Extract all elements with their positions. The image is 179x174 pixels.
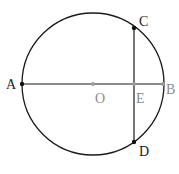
point-A bbox=[20, 82, 24, 86]
points bbox=[20, 26, 165, 144]
label-A: A bbox=[6, 77, 17, 92]
point-C bbox=[132, 26, 136, 30]
label-O: O bbox=[95, 91, 105, 106]
point-D bbox=[132, 140, 136, 144]
label-B: B bbox=[166, 82, 175, 97]
point-E bbox=[132, 82, 136, 86]
geometry-diagram: A B C D O E bbox=[0, 0, 179, 174]
labels: A B C D O E bbox=[6, 14, 175, 159]
label-C: C bbox=[139, 14, 148, 29]
label-E: E bbox=[136, 91, 145, 106]
point-O bbox=[91, 82, 95, 86]
point-B bbox=[161, 82, 165, 86]
label-D: D bbox=[139, 144, 149, 159]
